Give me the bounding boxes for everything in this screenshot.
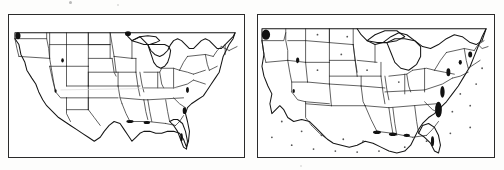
cartogram-great-lakes-outline <box>357 29 486 49</box>
distorted-us-cartogram-svg <box>258 15 494 157</box>
conventional-us-map-svg <box>9 15 244 157</box>
scan-speck <box>300 165 302 167</box>
us-national-outline <box>15 33 235 147</box>
state-boundaries-west <box>15 33 88 122</box>
state-boundaries-plains <box>88 33 122 126</box>
cartogram-state-boundaries-west <box>262 29 331 126</box>
scan-speck <box>69 1 72 4</box>
cartogram-coastal-ink-marks <box>262 30 472 147</box>
scan-speck <box>117 4 119 6</box>
cartogram-florida-outline <box>419 123 441 153</box>
state-boundaries-midwest <box>110 33 148 122</box>
cartogram-national-outline <box>262 29 486 153</box>
distorted-us-cartogram-panel <box>257 14 495 158</box>
figure-canvas <box>0 0 504 170</box>
florida-outline <box>170 120 188 150</box>
cartogram-state-boundaries-midwest <box>353 45 393 134</box>
cartogram-state-boundaries-plains <box>312 29 366 139</box>
conventional-us-map-panel <box>8 14 245 158</box>
scan-artifact-line <box>61 88 178 90</box>
cartogram-state-boundaries-east <box>385 41 488 138</box>
cartogram-michigan-outline <box>387 39 421 71</box>
